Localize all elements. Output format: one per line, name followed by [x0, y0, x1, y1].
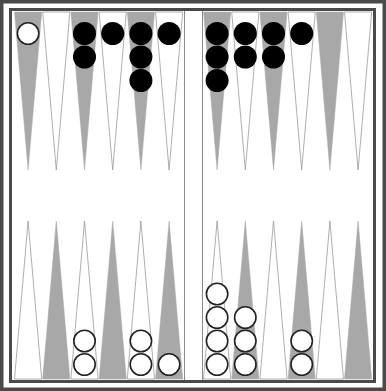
white-checker[interactable] [158, 354, 179, 375]
white-checker[interactable] [17, 23, 38, 44]
white-checker[interactable] [235, 330, 256, 351]
black-checker[interactable] [206, 46, 229, 69]
black-checker[interactable] [262, 22, 285, 45]
black-checker[interactable] [158, 22, 181, 45]
black-checker[interactable] [206, 69, 229, 92]
black-checker[interactable] [73, 46, 96, 69]
white-checker[interactable] [74, 330, 95, 351]
white-checker[interactable] [130, 354, 151, 375]
backgammon-board [0, 0, 386, 391]
black-checker[interactable] [101, 22, 124, 45]
white-checker[interactable] [206, 283, 227, 304]
black-checker[interactable] [73, 22, 96, 45]
black-checker[interactable] [129, 69, 152, 92]
white-checker[interactable] [206, 307, 227, 328]
black-checker[interactable] [234, 46, 257, 69]
black-checker[interactable] [262, 46, 285, 69]
white-checker[interactable] [235, 354, 256, 375]
white-checker[interactable] [206, 330, 227, 351]
white-checker[interactable] [235, 307, 256, 328]
black-checker[interactable] [234, 22, 257, 45]
white-checker[interactable] [74, 354, 95, 375]
white-checker[interactable] [291, 354, 312, 375]
white-checker[interactable] [291, 330, 312, 351]
black-checker[interactable] [129, 46, 152, 69]
white-checker[interactable] [206, 354, 227, 375]
black-checker[interactable] [290, 22, 313, 45]
black-checker[interactable] [206, 22, 229, 45]
white-checker[interactable] [130, 330, 151, 351]
black-checker[interactable] [129, 22, 152, 45]
